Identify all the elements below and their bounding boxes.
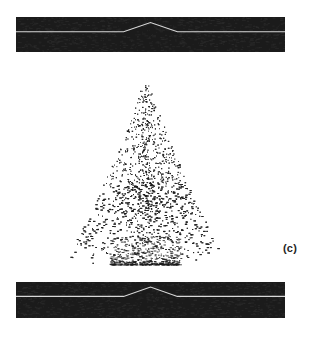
panel-label: (c) (283, 243, 297, 254)
scatter-cloud (60, 85, 230, 265)
scatter-points-group (60, 85, 230, 265)
figure-panel: (c) (0, 0, 319, 340)
top-interface-bar (16, 17, 285, 52)
bottom-bar-profile-line (16, 282, 285, 318)
bottom-interface-bar (16, 282, 285, 318)
top-bar-profile-line (16, 17, 285, 52)
